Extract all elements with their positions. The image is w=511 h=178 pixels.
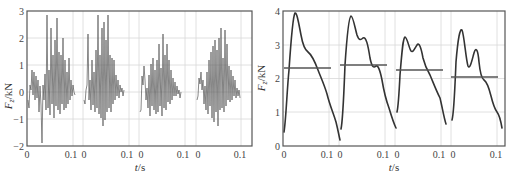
svg-text:0: 0 (451, 149, 456, 160)
right-y-ticks: 4 3 2 1 0 (275, 6, 280, 152)
left-signal (28, 15, 240, 143)
right-x-axis-label: t/s (389, 161, 399, 173)
svg-text:1: 1 (275, 107, 280, 118)
svg-text:0: 0 (395, 149, 400, 160)
left-x-ticks: 0 0.1 0 0.1 0 0.1 0 0.1 (25, 149, 247, 160)
left-signal-segment-4 (197, 28, 240, 126)
svg-text:0.1: 0.1 (377, 149, 390, 160)
left-x-axis-label: t/s (135, 161, 145, 173)
svg-text:0.1: 0.1 (65, 149, 78, 160)
right-chart: 4 3 2 1 0 0 0.1 0 0.1 0 0.1 0 0.1 Fz/kN … (255, 6, 505, 173)
svg-text:0.1: 0.1 (433, 149, 446, 160)
svg-text:1: 1 (19, 60, 24, 71)
right-y-axis-label: Fz/kN (255, 65, 269, 92)
left-y-ticks: 3 2 1 0 −1 −2 (13, 6, 24, 152)
svg-text:0: 0 (19, 87, 24, 98)
left-signal-segment-3 (140, 34, 181, 116)
svg-text:0: 0 (275, 141, 280, 152)
left-y-axis-label: Fz/kN (2, 83, 16, 110)
svg-text:2: 2 (19, 33, 24, 44)
svg-text:0.1: 0.1 (177, 149, 190, 160)
svg-text:0: 0 (282, 149, 287, 160)
svg-text:0: 0 (338, 149, 343, 160)
left-signal-segment-1 (28, 15, 75, 143)
svg-text:2: 2 (275, 73, 280, 84)
svg-text:0.1: 0.1 (490, 149, 503, 160)
svg-text:0: 0 (82, 149, 87, 160)
left-signal-segment-2 (84, 15, 124, 126)
right-x-ticks: 0 0.1 0 0.1 0 0.1 0 0.1 (282, 149, 503, 160)
svg-text:0: 0 (25, 149, 30, 160)
svg-text:−1: −1 (13, 114, 24, 125)
svg-text:0.1: 0.1 (321, 149, 334, 160)
svg-text:4: 4 (275, 6, 280, 17)
right-gridlines (283, 11, 505, 146)
svg-text:0: 0 (196, 149, 201, 160)
right-curve-segment-1 (284, 13, 340, 140)
figure: 3 2 1 0 −1 −2 0 0.1 0 0.1 0 0.1 0 0.1 Fz… (0, 0, 511, 178)
svg-text:0.1: 0.1 (234, 149, 247, 160)
svg-text:0.1: 0.1 (121, 149, 134, 160)
svg-text:−2: −2 (13, 141, 24, 152)
svg-text:0: 0 (139, 149, 144, 160)
right-curve-segment-3 (397, 37, 446, 124)
left-chart: 3 2 1 0 −1 −2 0 0.1 0 0.1 0 0.1 0 0.1 Fz… (2, 6, 252, 173)
svg-text:3: 3 (275, 40, 280, 51)
svg-text:3: 3 (19, 6, 24, 17)
